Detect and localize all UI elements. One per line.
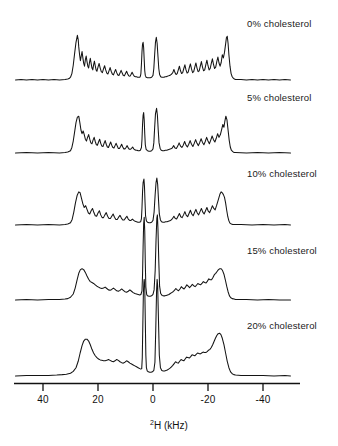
tick-label-3: -20 xyxy=(200,394,215,405)
tick-label-4: -40 xyxy=(255,394,270,405)
axis-title-text: H (kHz) xyxy=(154,420,188,431)
tick-label-0: 40 xyxy=(37,394,49,405)
tick-label-1: 20 xyxy=(92,394,104,405)
series-label-4: 20% cholesterol xyxy=(247,320,317,331)
series-label-3: 15% cholesterol xyxy=(247,245,317,256)
spectrum-trace xyxy=(16,215,291,300)
spectrum-trace xyxy=(16,35,291,80)
series-label-2: 10% cholesterol xyxy=(247,168,317,179)
x-axis xyxy=(14,384,300,392)
tick-label-2: 0 xyxy=(150,394,156,405)
deuterium-nmr-spectra-figure xyxy=(0,0,338,446)
spectrum-trace xyxy=(16,178,291,225)
series-label-0: 0% cholesterol xyxy=(247,18,311,29)
spectrum-trace xyxy=(16,108,291,153)
series-label-1: 5% cholesterol xyxy=(247,92,311,103)
axis-title: 2H (kHz) xyxy=(150,419,188,431)
axis-ticks xyxy=(43,384,263,391)
